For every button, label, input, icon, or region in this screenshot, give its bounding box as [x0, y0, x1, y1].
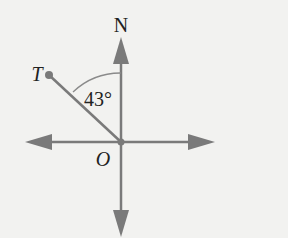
bearing-diagram: N T O 43°: [0, 0, 288, 238]
north-label: N: [114, 14, 128, 36]
north-arrow-icon: [113, 37, 129, 64]
point-t-label: T: [31, 63, 44, 85]
origin-label: O: [96, 148, 110, 170]
west-arrow-icon: [25, 134, 52, 150]
point-t: [45, 71, 53, 79]
east-arrow-icon: [188, 134, 215, 150]
south-arrow-icon: [113, 210, 129, 237]
angle-label: 43°: [84, 88, 112, 110]
point-o: [118, 139, 125, 146]
